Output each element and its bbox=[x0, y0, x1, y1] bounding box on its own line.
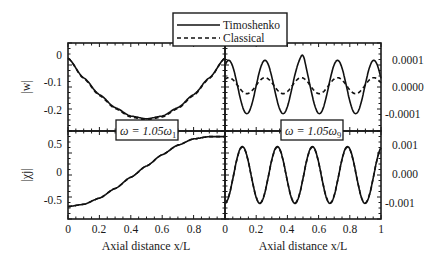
xtick-left-2: 0.4 bbox=[124, 223, 139, 235]
figure: Timoshenko Classical ω = 1.05ω1 ω = 1.05… bbox=[0, 0, 442, 262]
ytick-bottom-right-1: 0.000 bbox=[392, 168, 418, 180]
freq-label-right: ω = 1.05ω9 bbox=[281, 120, 343, 140]
freq-left-sub: 1 bbox=[172, 130, 176, 140]
freq-right-text: ω = 1.05ω bbox=[285, 124, 337, 138]
ytick-top-left-0: 0 bbox=[56, 49, 62, 61]
legend-label-classical: Classical bbox=[223, 32, 265, 44]
freq-left-text: ω = 1.05ω bbox=[120, 124, 172, 138]
top-left-classical-curve bbox=[68, 58, 225, 120]
xtick-right-1: 0.2 bbox=[249, 223, 264, 235]
legend: Timoshenko Classical bbox=[173, 13, 287, 46]
ytick-bottom-right-2: -0.001 bbox=[385, 197, 415, 209]
ytick-bottom-left-0: 0.5 bbox=[48, 138, 63, 150]
xtick-left-4: 0.8 bbox=[187, 223, 202, 235]
xtick-right-0: 0 bbox=[222, 223, 228, 235]
ytick-top-right-0: 0.0001 bbox=[392, 54, 424, 66]
xtick-left-1: 0.2 bbox=[92, 223, 107, 235]
ytick-top-right-1: 0.0000 bbox=[392, 81, 424, 93]
panel-bottom-left-frame bbox=[68, 131, 225, 219]
ytick-top-right-2: -0.0001 bbox=[385, 108, 421, 120]
ylabel-top: |w| bbox=[19, 80, 33, 93]
xtick-right-3: 0.6 bbox=[312, 223, 327, 235]
xtick-right-4: 0.8 bbox=[343, 223, 358, 235]
ytick-bottom-right-0: 0.001 bbox=[392, 139, 418, 151]
ytick-bottom-left-1: 0 bbox=[56, 166, 62, 178]
top-right-timoshenko-curve bbox=[225, 55, 381, 113]
bottom-left-classical-curve bbox=[68, 137, 225, 207]
xtick-right-5: 1 bbox=[378, 223, 384, 235]
xtick-right-2: 0.4 bbox=[280, 223, 295, 235]
bottom-left-timoshenko-curve bbox=[68, 137, 225, 207]
legend-label-timoshenko: Timoshenko bbox=[223, 19, 280, 31]
top-left-timoshenko-curve bbox=[68, 58, 225, 119]
ylabel-bottom: |χj| bbox=[19, 168, 33, 181]
ytick-top-left-2: -0.2 bbox=[44, 104, 62, 116]
xlabel-left: Axial distance x/L bbox=[102, 239, 191, 253]
svg-text:ω = 1.05ω9: ω = 1.05ω9 bbox=[285, 124, 341, 140]
freq-right-sub: 9 bbox=[337, 130, 341, 140]
freq-label-left: ω = 1.05ω1 bbox=[116, 120, 178, 140]
svg-text:ω = 1.05ω1: ω = 1.05ω1 bbox=[120, 124, 176, 140]
xtick-left-0: 0 bbox=[65, 223, 71, 235]
ytick-bottom-left-2: -0.5 bbox=[44, 194, 62, 206]
xtick-left-3: 0.6 bbox=[155, 223, 170, 235]
ytick-top-left-1: -0.1 bbox=[44, 76, 62, 88]
bottom-right-classical-curve bbox=[225, 147, 381, 203]
top-right-classical-curve bbox=[225, 78, 381, 94]
xlabel-right: Axial distance x/L bbox=[259, 239, 348, 253]
